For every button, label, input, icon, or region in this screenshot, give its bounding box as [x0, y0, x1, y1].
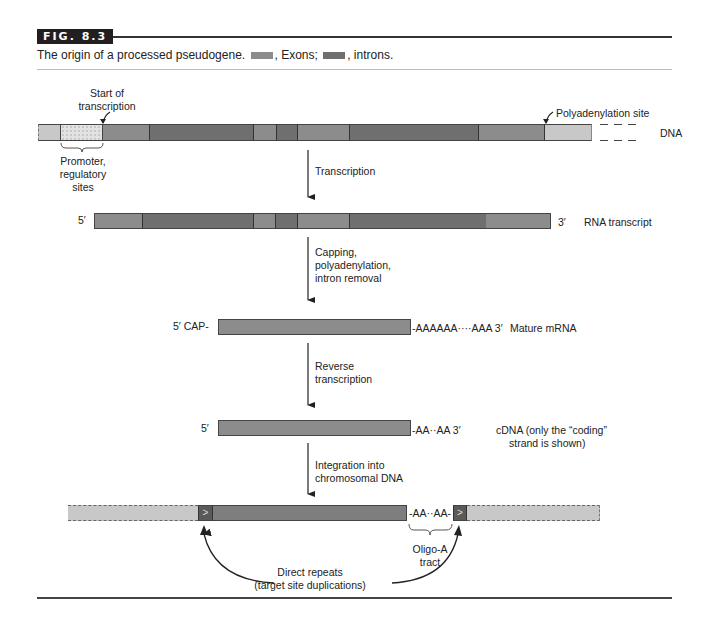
dna-dashes — [600, 125, 642, 141]
promoter-brace-icon — [61, 143, 103, 152]
right-repeat-arrow-icon — [392, 534, 458, 583]
left-repeat-arrow-icon — [204, 534, 274, 583]
oligo-a-brace-icon — [409, 524, 452, 535]
diagram-overlay — [0, 0, 704, 620]
